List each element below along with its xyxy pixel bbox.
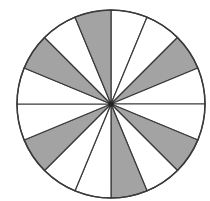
fraction-circle-diagram — [0, 0, 210, 201]
center-dot — [109, 102, 114, 107]
